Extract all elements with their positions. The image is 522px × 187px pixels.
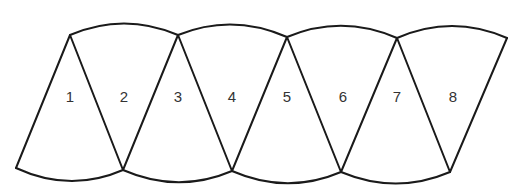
segment-label-2: 2 [120,88,128,105]
bottom-arc-4 [341,172,450,184]
bottom-arc-3 [232,171,341,183]
top-arc-3 [287,26,397,38]
segment-label-4: 4 [228,88,236,105]
gore-net-diagram: 12345678 [0,0,522,187]
segment-label-1: 1 [66,88,74,105]
segment-label-3: 3 [174,88,182,105]
top-arc-4 [397,26,507,38]
segment-label-5: 5 [283,88,291,105]
segment-label-6: 6 [339,88,347,105]
zigzag-edges [16,35,507,172]
top-arc-2 [178,24,287,37]
diagram-canvas: 12345678 [0,0,522,187]
segment-label-8: 8 [449,88,457,105]
bottom-arc-2 [123,170,232,182]
segment-label-7: 7 [393,88,401,105]
bottom-arc-1 [16,168,123,181]
top-arc-1 [70,24,178,36]
